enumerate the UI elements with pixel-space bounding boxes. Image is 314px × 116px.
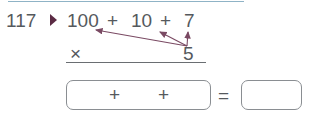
multiplication-rule [66, 62, 206, 63]
partial-products-box[interactable] [66, 80, 211, 110]
times-sign: × [70, 44, 81, 64]
plus-sign: + [158, 85, 169, 105]
equals-sign: = [218, 86, 229, 106]
plus-sign: + [109, 85, 120, 105]
answer-box[interactable] [241, 80, 302, 110]
multiplier: 5 [183, 44, 194, 64]
